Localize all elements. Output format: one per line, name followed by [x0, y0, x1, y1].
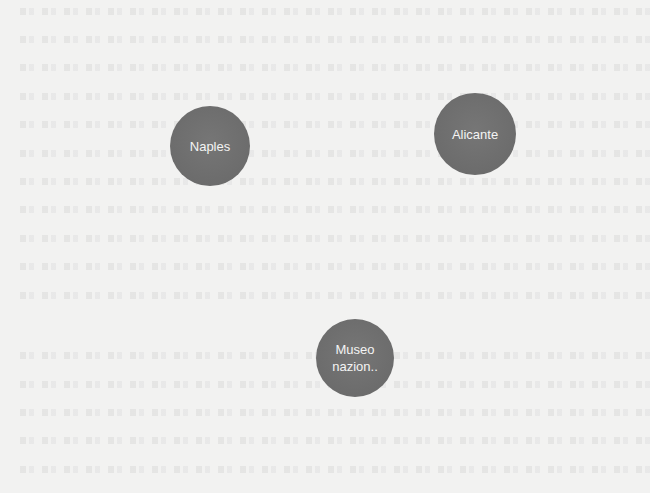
- node-alicante[interactable]: Alicante: [434, 93, 516, 175]
- node-label: Alicante: [452, 126, 498, 143]
- diagram-canvas: Naples Alicante Museo nazion..: [0, 0, 650, 493]
- node-label: Museo nazion..: [332, 341, 378, 375]
- node-label: Naples: [190, 138, 230, 155]
- node-museo-nazionale[interactable]: Museo nazion..: [316, 319, 394, 397]
- node-naples[interactable]: Naples: [170, 106, 250, 186]
- background-print-texture: [20, 0, 650, 493]
